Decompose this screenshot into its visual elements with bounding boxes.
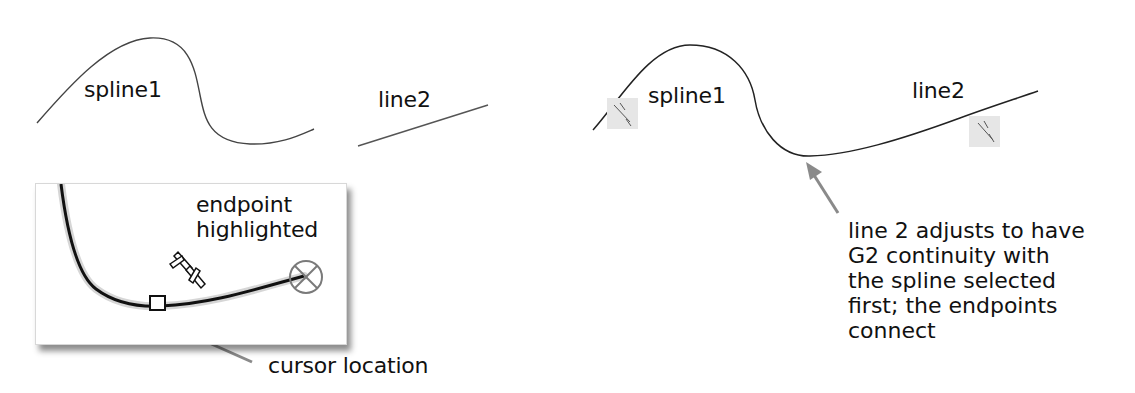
cursor-box-icon [150,296,165,310]
endpoint-label-line2: highlighted [196,217,318,242]
endpoint-label-line1: endpoint [196,192,318,217]
caption-line: line 2 adjusts to have [848,218,1085,243]
spline1-curve-before [37,38,314,144]
relation-badge-icon [969,116,1000,147]
g2-arrow-icon [806,162,838,213]
cursor-location-label: cursor location [268,354,428,378]
caption-line: the spline selected [848,268,1085,293]
g2-continuity-caption: line 2 adjusts to have G2 continuity wit… [848,218,1085,343]
endpoint-highlighted-label: endpoint highlighted [196,192,318,242]
caption-line: connect [848,318,1085,343]
endpoint-inset-panel: endpoint highlighted [35,183,347,345]
relation-badge-icon [607,98,638,129]
line2-label-before: line2 [378,88,431,112]
spline1-label-after: spline1 [648,84,726,108]
caption-line: G2 continuity with [848,243,1085,268]
line2-label-after: line2 [912,79,965,103]
relation-icon [170,252,205,288]
spline1-label-before: spline1 [84,78,162,102]
caption-line: first; the endpoints [848,293,1085,318]
